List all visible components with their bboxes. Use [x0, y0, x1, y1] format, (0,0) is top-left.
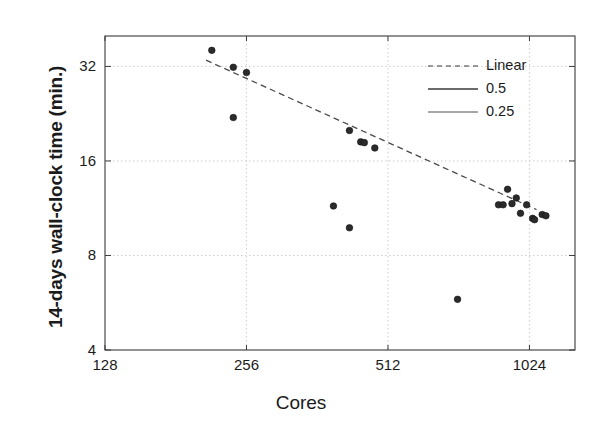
- data-point: [543, 213, 550, 220]
- x-tick-label-512: 512: [358, 356, 418, 373]
- data-point: [513, 195, 520, 202]
- y-tick-label-8: 8: [52, 246, 96, 263]
- data-point: [230, 64, 237, 71]
- data-point: [371, 145, 378, 152]
- data-point: [531, 216, 538, 223]
- data-point: [504, 186, 511, 193]
- data-point: [454, 296, 461, 303]
- data-point: [230, 114, 237, 121]
- y-tick-label-32: 32: [52, 57, 96, 74]
- data-point: [517, 210, 524, 217]
- data-point: [209, 47, 216, 54]
- data-point: [361, 139, 368, 146]
- y-tick-label-16: 16: [52, 152, 96, 169]
- data-point: [509, 200, 516, 207]
- data-point: [346, 127, 353, 134]
- x-tick-label-128: 128: [75, 356, 135, 373]
- data-point: [243, 69, 250, 76]
- data-point: [523, 202, 530, 209]
- x-tick-label-256: 256: [216, 356, 276, 373]
- legend-sample-lines: [428, 66, 478, 112]
- legend-label-Linear: Linear: [486, 57, 526, 73]
- data-point: [346, 225, 353, 232]
- chart-figure: 14-days wall-clock time (min.) Cores 128…: [0, 0, 602, 427]
- data-point: [330, 203, 337, 210]
- y-tick-label-4: 4: [52, 341, 96, 358]
- data-point: [500, 202, 507, 209]
- legend-label-0-25: 0.25: [486, 103, 514, 119]
- x-tick-label-1024: 1024: [499, 356, 559, 373]
- x-axis-title: Cores: [0, 392, 602, 414]
- legend-label-0-5: 0.5: [486, 80, 506, 96]
